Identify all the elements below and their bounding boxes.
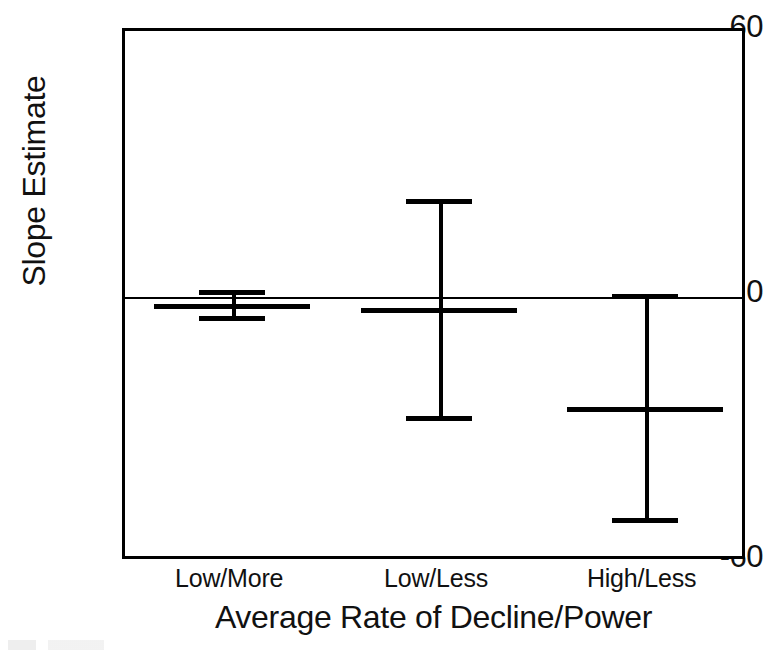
x-axis-tick-label-low-less: Low/Less [316,563,556,593]
error-bar-mean-marker [361,308,517,313]
y-axis-title: Slope Estimate [14,61,54,301]
error-bar-stem [645,294,649,517]
plot-area [122,28,745,559]
error-bar-lower-cap [612,518,678,523]
x-axis-tick-label-low-more: Low/More [109,563,349,593]
x-axis-tick-label-high-less: High/Less [522,563,762,593]
error-bar-mean-marker [154,304,310,309]
chart-figure: Slope Estimate 60 0 -60 Low/More [0,0,763,652]
x-axis-title: Average Rate of Decline/Power [122,598,745,636]
error-bar-mean-marker [567,407,723,412]
scan-edge-artifact [8,640,128,650]
error-bar-lower-cap [406,416,472,421]
error-bar-lower-cap [199,316,265,321]
